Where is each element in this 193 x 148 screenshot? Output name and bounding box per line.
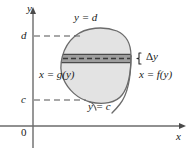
- origin-label: 0: [21, 127, 27, 138]
- x-axis-label: x: [176, 131, 181, 142]
- curve-label-top: y = d: [74, 12, 97, 23]
- tick-label-c: c: [21, 94, 26, 105]
- strip-group: [55, 54, 137, 63]
- delta-y-brace: [137, 53, 141, 64]
- tick-label-d: d: [21, 30, 27, 41]
- x-axis-arrowhead: [179, 123, 186, 129]
- curve-label-left: x = g(y): [39, 69, 75, 80]
- curve-label-bottom: y = c: [88, 101, 111, 112]
- delta-y-variable: y: [153, 50, 158, 62]
- curve-label-right: x = f(y): [139, 69, 172, 80]
- delta-y-label: Δy: [146, 51, 158, 62]
- y-axis-label: y: [27, 3, 32, 14]
- integration-region-diagram: y x 0 d c y = d y = c x = g(y) x = f(y) …: [0, 0, 193, 148]
